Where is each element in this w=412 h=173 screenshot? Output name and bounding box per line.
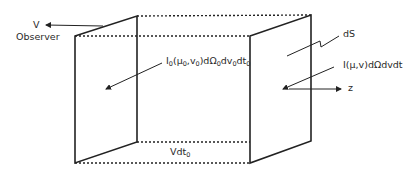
radiation-transfer-diagram: V Observer I0(μ0,v0)dΩ0dv0dt0 dS I(μ,v)d…	[0, 0, 412, 173]
observer-label: Observer	[16, 32, 60, 42]
path-length-label: Vdt0	[170, 147, 190, 159]
dotted-edge-top-back	[137, 15, 311, 16]
z-axis-label: z	[348, 83, 353, 93]
left-panel	[75, 16, 137, 163]
velocity-label: V	[33, 20, 40, 30]
inner-intensity-label: I0(μ0,v0)dΩ0dv0dt0	[166, 56, 251, 68]
surface-element-label: dS	[343, 29, 355, 39]
outer-intensity-label: I(μ,v)dΩdvdt	[343, 60, 403, 70]
ds-leader-line	[287, 36, 339, 56]
outer-intensity-arrow	[283, 67, 334, 89]
inner-intensity-arrow	[106, 63, 162, 89]
observer-arrow	[46, 25, 103, 26]
